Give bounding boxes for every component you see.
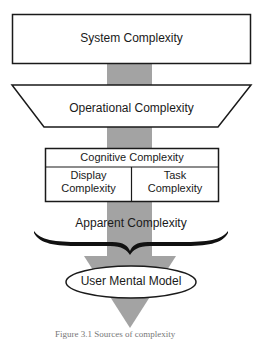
task-complexity-line2: Complexity — [132, 182, 218, 195]
user-mental-model-label: User Mental Model — [66, 274, 196, 288]
operational-complexity-label: Operational Complexity — [12, 101, 251, 115]
display-complexity-label: Display Complexity — [46, 169, 131, 195]
cognitive-complexity-label: Cognitive Complexity — [46, 151, 218, 163]
display-complexity-line1: Display — [46, 169, 131, 182]
task-complexity-line1: Task — [132, 169, 218, 182]
display-complexity-line2: Complexity — [46, 182, 131, 195]
apparent-complexity-label: Apparent Complexity — [34, 216, 228, 230]
figure-caption: Figure 3.1 Sources of complexity — [55, 329, 235, 339]
complexity-diagram: System Complexity Operational Complexity… — [0, 0, 261, 339]
system-complexity-label: System Complexity — [12, 31, 251, 45]
task-complexity-label: Task Complexity — [132, 169, 218, 195]
